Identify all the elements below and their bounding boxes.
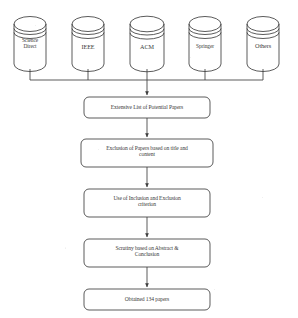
process-box-exclusion-title-content[interactable] bbox=[81, 139, 213, 167]
process-box-extensive-list[interactable] bbox=[84, 97, 210, 118]
process-box-obtained-papers[interactable] bbox=[84, 289, 210, 310]
source-collector-bus bbox=[30, 69, 263, 80]
source-cylinder-acm[interactable] bbox=[130, 16, 164, 72]
source-cylinder-others[interactable] bbox=[247, 17, 279, 72]
source-cylinder-ieee[interactable] bbox=[72, 17, 104, 72]
process-box-inclusion-exclusion-criterion[interactable] bbox=[84, 189, 210, 217]
source-cylinder-science-direct[interactable] bbox=[14, 17, 46, 72]
source-cylinder-springer[interactable] bbox=[189, 17, 221, 72]
process-box-scrutiny-abstract-conclusion[interactable] bbox=[84, 239, 210, 267]
flowchart-canvas bbox=[0, 0, 298, 318]
